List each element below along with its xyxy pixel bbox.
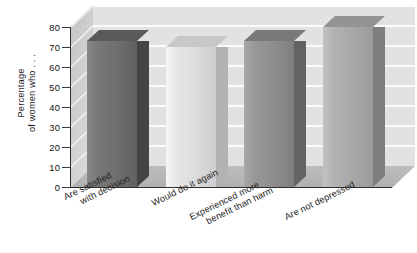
y-axis-tick-mark bbox=[62, 47, 70, 48]
x-axis-tick-label: Are satisfiedwith decision bbox=[62, 164, 132, 214]
y-axis-tick-mark bbox=[62, 187, 70, 188]
y-axis-tick-mark bbox=[62, 107, 70, 108]
x-axis-tick-label: Are not depressed bbox=[283, 179, 357, 223]
y-axis-tick-mark bbox=[62, 167, 70, 168]
y-axis-tick-mark bbox=[62, 87, 70, 88]
x-axis-tick-label-line: Are not depressed bbox=[283, 179, 356, 222]
y-axis-tick-mark bbox=[62, 147, 70, 148]
y-axis-tick-mark bbox=[62, 127, 70, 128]
bar-chart: Percentage of women who . . . 0102030405… bbox=[0, 0, 417, 253]
y-axis-tick-mark bbox=[62, 27, 70, 28]
y-axis-tick-mark bbox=[62, 67, 70, 68]
